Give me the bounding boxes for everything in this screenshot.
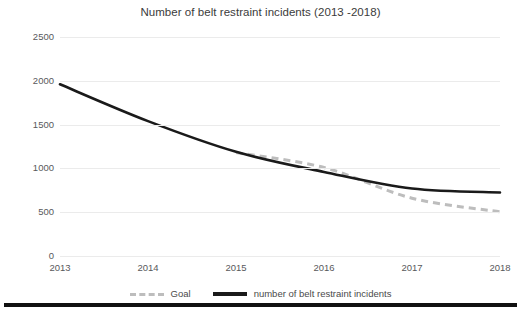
y-tick-label: 2000: [6, 76, 54, 86]
gridline: [60, 125, 500, 126]
legend-swatch-icon: [130, 293, 164, 296]
y-tick-label: 0: [6, 251, 54, 261]
gridline: [60, 168, 500, 169]
y-tick-label: 500: [6, 207, 54, 217]
x-tick-label-2013: 2013: [30, 262, 90, 274]
x-axis: 201320142015201620172018: [60, 262, 500, 276]
gridline: [60, 256, 500, 257]
x-tick-label-2017: 2017: [382, 262, 442, 274]
legend-label: number of belt restraint incidents: [254, 288, 392, 300]
legend-label: Goal: [171, 288, 191, 300]
x-tick-label-2018: 2018: [470, 262, 521, 274]
y-tick-label: 2500: [6, 32, 54, 42]
gridline: [60, 81, 500, 82]
legend-item[interactable]: number of belt restraint incidents: [213, 288, 392, 300]
series-layer: [60, 37, 500, 256]
legend-swatch-icon: [213, 292, 247, 296]
gridline: [60, 37, 500, 38]
x-tick-label-2015: 2015: [206, 262, 266, 274]
chart-container: Number of belt restraint incidents (2013…: [0, 0, 521, 317]
plot-area: [60, 37, 500, 256]
gridline: [60, 212, 500, 213]
x-tick-label-2014: 2014: [118, 262, 178, 274]
legend-item[interactable]: Goal: [130, 288, 191, 300]
chart-title: Number of belt restraint incidents (2013…: [0, 6, 521, 18]
y-tick-label: 1500: [6, 120, 54, 130]
bottom-rule-divider: [4, 303, 517, 307]
chart-legend: Goalnumber of belt restraint incidents: [0, 286, 521, 302]
y-axis: 05001000150020002500: [6, 37, 54, 256]
x-tick-label-2016: 2016: [294, 262, 354, 274]
y-tick-label: 1000: [6, 163, 54, 173]
incidents-series-line: [60, 84, 500, 192]
